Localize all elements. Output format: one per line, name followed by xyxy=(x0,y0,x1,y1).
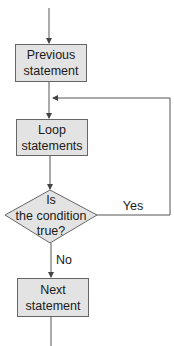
previous-line1: Previous xyxy=(15,47,87,63)
loop-line2: statements xyxy=(16,138,88,154)
next-line2: statement xyxy=(17,298,89,314)
loop-statements-label: Loop statements xyxy=(16,122,88,154)
previous-line2: statement xyxy=(15,63,87,79)
next-line1: Next xyxy=(17,282,89,298)
condition-line2: the condition xyxy=(5,209,97,225)
condition-line1: Is xyxy=(5,193,97,209)
yes-label: Yes xyxy=(118,199,148,214)
loop-line1: Loop xyxy=(16,122,88,138)
next-statement-label: Next statement xyxy=(17,282,89,314)
no-label: No xyxy=(56,253,76,268)
condition-label: Is the condition true? xyxy=(5,193,97,240)
previous-statement-label: Previous statement xyxy=(15,47,87,79)
condition-line3: true? xyxy=(5,224,97,240)
